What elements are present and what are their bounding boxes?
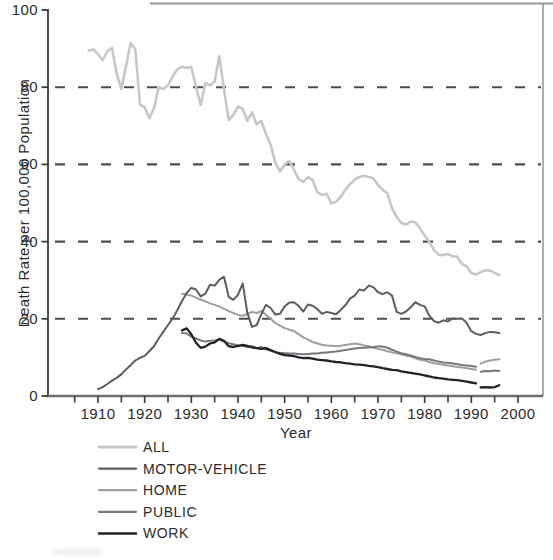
tick-labels: 0204060801001910192019301940195019601970… xyxy=(12,1,536,422)
axis-ticks xyxy=(42,10,519,403)
series-line-all xyxy=(89,43,500,275)
axes xyxy=(47,9,543,397)
series-line-home xyxy=(182,294,476,370)
y-axis-title: Death Rate per 100,000 Population xyxy=(15,79,32,327)
x-tick-label-1940: 1940 xyxy=(221,405,256,422)
legend-label-motor-vehicle: MOTOR-VEHICLE xyxy=(143,461,267,477)
legend-label-home: HOME xyxy=(143,482,187,498)
legend-label-public: PUBLIC xyxy=(143,504,197,520)
x-tick-label-1920: 1920 xyxy=(127,405,162,422)
x-tick-label-1960: 1960 xyxy=(314,405,349,422)
x-tick-label-1990: 1990 xyxy=(454,405,489,422)
x-tick-label-1980: 1980 xyxy=(407,405,442,422)
series-line-home-post-break xyxy=(481,359,500,363)
legend-label-all: ALL xyxy=(143,439,170,455)
series-line-work-post-break xyxy=(481,385,500,387)
x-tick-label-1950: 1950 xyxy=(267,405,302,422)
gridlines xyxy=(55,87,541,319)
x-tick-label-1970: 1970 xyxy=(361,405,396,422)
x-axis-title: Year xyxy=(280,424,312,441)
legend: ALLMOTOR-VEHICLEHOMEPUBLICWORK xyxy=(99,439,267,541)
x-tick-label-2000: 2000 xyxy=(501,405,536,422)
legend-label-work: WORK xyxy=(143,525,189,541)
plot-frame xyxy=(150,4,553,397)
x-tick-label-1910: 1910 xyxy=(81,405,116,422)
series-line-public-post-break xyxy=(481,371,500,372)
y-tick-label-0: 0 xyxy=(29,387,38,404)
series-line-motor-vehicle xyxy=(98,277,499,389)
series-line-work xyxy=(182,328,476,383)
x-tick-label-1930: 1930 xyxy=(174,405,209,422)
chart-figure: 0204060801001910192019301940195019601970… xyxy=(0,0,553,560)
scan-artifact xyxy=(52,549,104,555)
y-tick-label-100: 100 xyxy=(12,1,38,18)
data-series xyxy=(89,43,500,389)
